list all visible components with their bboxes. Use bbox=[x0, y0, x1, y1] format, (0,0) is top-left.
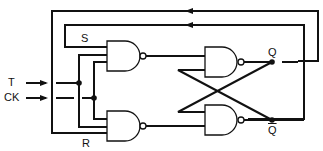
q-output-label: Q bbox=[268, 47, 277, 58]
qbar-output-label: Q bbox=[268, 125, 277, 136]
nand-gate-qbar bbox=[205, 105, 304, 135]
s-line-label: S bbox=[81, 33, 88, 44]
ck-input-label: CK bbox=[4, 92, 19, 103]
r-line-label: R bbox=[82, 138, 90, 149]
ck-input-wire bbox=[26, 62, 107, 119]
nand-gate-r bbox=[107, 111, 205, 141]
t-input-label: T bbox=[8, 77, 15, 88]
nand-gate-s bbox=[107, 41, 205, 71]
